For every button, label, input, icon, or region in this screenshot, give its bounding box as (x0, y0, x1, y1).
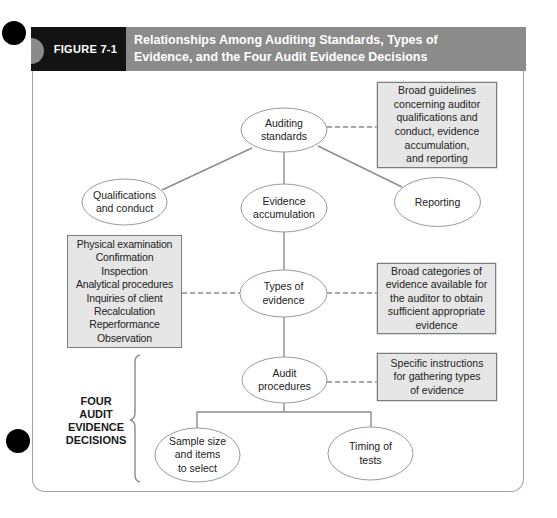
connector-branch-decisions (197, 412, 371, 428)
node-timing: Timing of tests (328, 427, 413, 480)
node-auditing-standards: Auditing standards (241, 108, 327, 152)
note-audit-procedures: Specific instructions for gathering type… (377, 353, 497, 401)
node-qualifications: Qualifications and conduct (82, 179, 167, 225)
evidence-type-item: Observation (97, 332, 152, 345)
evidence-types-list: Physical examination Confirmation Inspec… (67, 235, 182, 348)
node-reporting: Reporting (394, 178, 481, 227)
evidence-type-item: Inspection (101, 265, 147, 278)
evidence-type-item: Confirmation (96, 251, 154, 264)
note-types-of-evidence: Broad categories of evidence available f… (377, 263, 496, 334)
node-sample-size: Sample size and items to select (155, 428, 240, 482)
node-types-of-evidence: Types of evidence (240, 270, 327, 317)
evidence-type-item: Physical examination (77, 238, 173, 251)
evidence-type-item: Inquiries of client (87, 292, 163, 305)
evidence-type-item: Reperformance (89, 318, 159, 331)
connector-standards-qualifications (162, 148, 252, 190)
node-audit-procedures: Audit procedures (242, 357, 327, 403)
evidence-type-item: Recalculation (94, 305, 155, 318)
evidence-type-item: Analytical procedures (76, 278, 173, 291)
four-audit-evidence-decisions-label: FOUR AUDIT EVIDENCE DECISIONS (56, 395, 136, 447)
note-auditing-standards: Broad guidelines concerning auditor qual… (377, 82, 497, 168)
node-evidence-accumulation: Evidence accumulation (241, 184, 327, 232)
